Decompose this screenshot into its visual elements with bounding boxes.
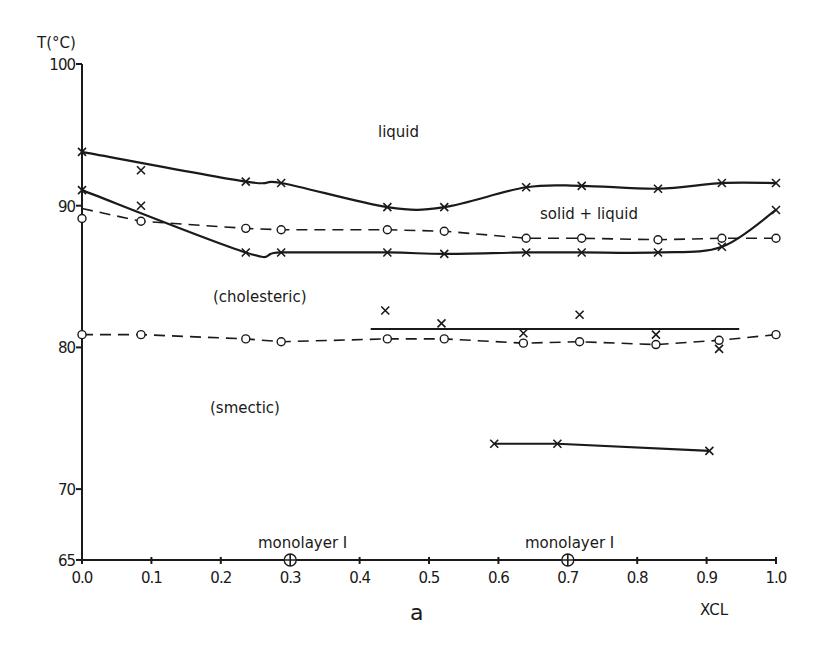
x-tick-label: 0.3 [280, 569, 301, 587]
x-tick-label: 0.2 [210, 569, 231, 587]
x-tick-label: 0.1 [141, 569, 162, 587]
x-marker-icon [576, 311, 584, 319]
x-tick-label: 0.4 [349, 569, 370, 587]
circle-marker-icon [440, 335, 448, 343]
x-marker-icon [137, 166, 145, 174]
region-label-liquid: liquid [378, 123, 419, 141]
circle-marker-icon [578, 234, 586, 242]
series-upper-dashed-transition [82, 209, 776, 240]
region-label-smectic: (smectic) [210, 399, 280, 417]
circle-marker-icon [654, 236, 662, 244]
circle-marker-icon [383, 335, 391, 343]
x-marker-icon [381, 307, 389, 315]
circle-marker-icon [137, 217, 145, 225]
x-tick-label: 0.5 [419, 569, 440, 587]
panel-label: a [410, 600, 423, 625]
circle-marker-icon [242, 335, 250, 343]
y-tick-label: 70 [58, 481, 76, 499]
series-isolated-points [137, 166, 145, 209]
circle-marker-icon [137, 331, 145, 339]
circle-marker-icon [242, 224, 250, 232]
y-axis-label: T(°C) [36, 34, 76, 52]
x-tick-label: 1.0 [766, 569, 787, 587]
x-marker-icon [437, 319, 445, 327]
circle-marker-icon [78, 214, 86, 222]
circle-marker-icon [277, 226, 285, 234]
x-marker-icon [519, 329, 527, 337]
annotation-monolayer-right: monolayer I [525, 534, 614, 552]
circle-marker-icon [78, 331, 86, 339]
x-marker-icon [772, 206, 780, 214]
y-tick-label: 90 [58, 198, 76, 216]
circle-marker-icon [383, 226, 391, 234]
x-tick-label: 0.8 [627, 569, 648, 587]
x-tick-label: 0.6 [488, 569, 509, 587]
circle-marker-icon [277, 338, 285, 346]
y-tick-label: 100 [49, 56, 75, 74]
circle-marker-icon [519, 339, 527, 347]
series-solidus-lower-solid-curve- [78, 186, 780, 258]
x-marker-icon [137, 202, 145, 210]
circle-marker-icon [576, 338, 584, 346]
circle-marker-icon [715, 336, 723, 344]
x-tick-label: 0.7 [557, 569, 578, 587]
circle-marker-icon [772, 331, 780, 339]
circle-marker-icon [772, 234, 780, 242]
circle-marker-icon [440, 227, 448, 235]
region-label-solid-liquid: solid + liquid [540, 205, 638, 223]
x-marker-icon [715, 345, 723, 353]
series-liquidus-upper-solid-curve- [78, 148, 780, 211]
circle-marker-icon [522, 234, 530, 242]
x-tick-label: 0.9 [696, 569, 717, 587]
x-tick-label: 0.0 [72, 569, 93, 587]
phase-diagram-chart: 100908070650.00.10.20.30.40.50.60.70.80.… [0, 0, 827, 655]
region-label-cholesteric: (cholesteric) [213, 288, 307, 306]
series-cholesteric-smectic-transition-dashed- [78, 331, 780, 349]
series-horizontal-line-73 [490, 440, 713, 455]
data-series [78, 148, 780, 566]
x-axis-label: XCL [700, 601, 729, 619]
annotation-monolayer-left: monolayer I [258, 534, 347, 552]
y-tick-label: 65 [58, 552, 76, 570]
x-marker-icon [652, 331, 660, 339]
circle-marker-icon [718, 234, 726, 242]
y-tick-label: 80 [58, 339, 76, 357]
circle-marker-icon [652, 341, 660, 349]
